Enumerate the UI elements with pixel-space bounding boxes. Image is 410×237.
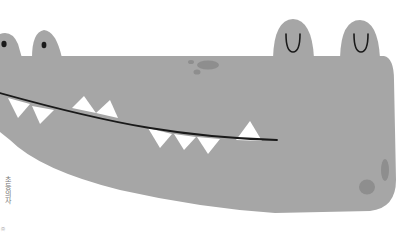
left-eye-bump-2 <box>32 30 62 58</box>
eye-dot-icon <box>42 42 47 48</box>
crocodile-illustration <box>0 0 410 237</box>
eye-dot-icon <box>1 41 6 47</box>
caption-mark: ㈜ <box>1 226 5 232</box>
spot <box>194 69 201 74</box>
spot <box>359 180 375 195</box>
spot <box>188 60 194 64</box>
spot <box>197 61 219 70</box>
spot <box>381 159 389 181</box>
caption-text: 초등의자 <box>1 176 11 204</box>
